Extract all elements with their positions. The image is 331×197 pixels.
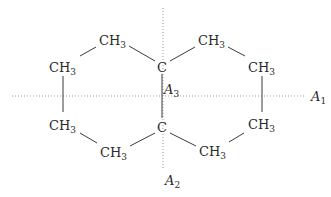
atom-c-top: C	[157, 60, 167, 75]
bond-lowerleft-bottomleft	[80, 133, 97, 143]
bond-cbottom-bottomleft	[130, 133, 155, 146]
bond-ctop-topleft	[129, 46, 155, 61]
axis-a1-label: A1	[310, 89, 326, 106]
atom-c-bottom: C	[157, 120, 167, 135]
bond-topleft-upperleft	[80, 47, 96, 56]
bond-ctop-topright	[170, 47, 195, 61]
atom-ch3-bottom-right: CH3	[199, 144, 226, 161]
bond-topright-upperright	[228, 47, 245, 56]
atom-ch3-top-right: CH3	[198, 33, 225, 50]
atom-ch3-upper-right: CH3	[248, 60, 275, 77]
atom-ch3-lower-left: CH3	[49, 118, 76, 135]
bond-lowerright-bottomright	[229, 133, 244, 142]
bond-cbottom-bottomright	[170, 133, 196, 146]
axis-a3-label: A3	[163, 82, 179, 99]
atom-ch3-top-left: CH3	[99, 33, 126, 50]
atom-ch3-lower-right: CH3	[248, 117, 275, 134]
molecule-diagram: C C CH3 CH3 CH3 CH3 CH3 CH3 CH3 CH3 A1 A…	[0, 0, 331, 197]
axis-a2-label: A2	[164, 173, 180, 190]
atom-ch3-bottom-left: CH3	[100, 145, 127, 162]
atom-ch3-upper-left: CH3	[49, 60, 76, 77]
